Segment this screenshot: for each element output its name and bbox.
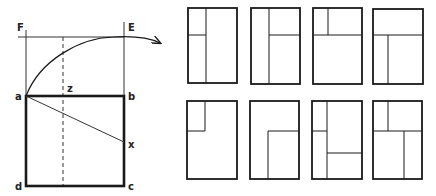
label-d: d [15,181,22,192]
layout-3 [313,8,362,84]
label-e: E [128,22,135,33]
layout-5 [187,101,237,179]
label-a: a [15,91,22,102]
golden-section-construction: F E z a b x d c [15,22,160,192]
layout-1 [188,8,237,83]
layout-grid [187,8,423,179]
arc-arrow [26,37,160,96]
label-z: z [67,83,73,94]
label-b: b [128,91,135,102]
square-abcd [26,96,124,186]
layout-6 [250,101,299,179]
layout-4 [373,9,423,84]
layout-2 [251,8,300,84]
layout-7 [312,101,362,179]
label-c: c [128,181,134,192]
line-a-x [26,96,124,142]
label-f: F [17,22,24,33]
diagram-canvas: F E z a b x d c [0,0,436,196]
label-x: x [128,139,135,150]
layout-8 [373,101,422,179]
